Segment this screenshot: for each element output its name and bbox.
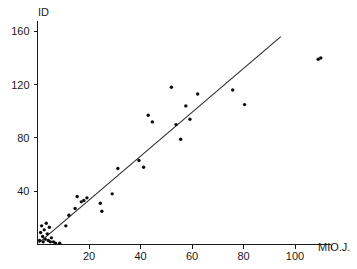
data-point [75,195,78,198]
data-point [50,236,53,239]
x-tick-label: 100 [286,250,304,262]
plot-canvas: 4080120160 20406080100 ID MIO.J. [0,0,357,269]
y-tick-label: 120 [11,79,29,91]
data-point [85,196,88,199]
data-point [82,199,85,202]
data-point [231,88,234,91]
x-axis-title: MIO.J. [318,241,350,253]
data-point [243,103,246,106]
data-point [179,138,182,141]
data-point [67,213,70,216]
data-point [48,225,51,228]
x-axis: 20406080100 [38,245,332,262]
data-point [73,207,76,210]
data-point [142,166,145,169]
data-point [100,209,103,212]
data-point [45,221,48,224]
data-point [188,118,191,121]
data-point [170,86,173,89]
x-tick-label: 40 [134,250,146,262]
data-point [99,201,102,204]
regression-line [39,37,281,244]
data-point [64,224,67,227]
data-point [39,231,42,234]
y-tick-label: 160 [11,25,29,37]
data-point [46,232,49,235]
data-point [49,240,52,243]
data-point [184,104,187,107]
data-point [44,237,47,240]
data-point [41,235,44,238]
data-point [110,192,113,195]
data-points [38,56,323,245]
data-point [116,167,119,170]
data-point [174,123,177,126]
data-point [319,56,322,59]
data-point [40,224,43,227]
data-point [58,241,61,244]
y-tick-label: 40 [17,185,29,197]
x-tick-label: 60 [186,250,198,262]
data-point [42,228,45,231]
y-axis: 4080120160 [11,21,37,245]
x-tick-label: 20 [83,250,95,262]
y-tick-label: 80 [17,132,29,144]
data-point [151,120,154,123]
data-point [196,92,199,95]
data-point [41,240,44,243]
data-point [38,239,41,242]
scatter-plot-figure: 4080120160 20406080100 ID MIO.J. [0,0,357,269]
data-point [54,241,57,244]
data-point [137,159,140,162]
x-tick-label: 80 [237,250,249,262]
data-point [147,114,150,117]
y-axis-title: ID [38,6,49,18]
